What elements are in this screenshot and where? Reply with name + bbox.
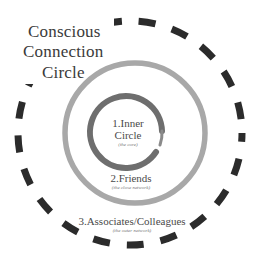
title-line-2: Connection: [23, 42, 103, 61]
associates-label: 3.Associates/Colleagues (the outer netwo…: [62, 215, 202, 234]
inner-label-line-1: 1.Inner: [103, 117, 153, 129]
title-line-1: Conscious: [28, 22, 101, 41]
associates-label-text: 3.Associates/Colleagues: [62, 215, 202, 227]
inner-label-line-2: Circle: [103, 129, 153, 141]
title-line-3: Circle: [42, 63, 85, 82]
associates-sublabel: (the outer network): [62, 227, 202, 234]
friends-sublabel: (the close network): [93, 184, 169, 191]
friends-label: 2.Friends (the close network): [93, 172, 169, 191]
inner-circle-label: 1.Inner Circle (the core): [103, 117, 153, 148]
inner-sublabel: (the core): [103, 141, 153, 148]
friends-label-text: 2.Friends: [93, 172, 169, 184]
